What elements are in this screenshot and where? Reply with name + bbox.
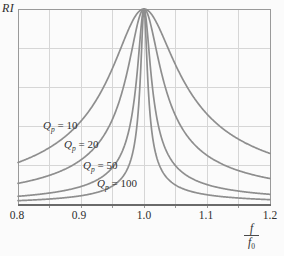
curve-label-base: Q xyxy=(43,119,51,131)
fraction-denominator-sub: 0 xyxy=(251,242,255,251)
x-tick-label-0.9: 0.9 xyxy=(72,209,86,221)
curve-label-base: Q xyxy=(64,138,72,150)
curve-label-base: Q xyxy=(97,177,105,189)
fraction-numerator: f xyxy=(244,222,259,235)
curve-label-value: = 100 xyxy=(109,177,137,189)
x-tick-label-0.8: 0.8 xyxy=(10,209,24,221)
x-axis-label-fraction: f f0 xyxy=(244,222,259,249)
curve-label-base: Q xyxy=(83,159,91,171)
x-tick-label-1.1: 1.1 xyxy=(199,209,213,221)
y-axis-label: RI xyxy=(2,1,14,16)
fraction-denominator: f0 xyxy=(244,235,259,249)
curve-label-qp50: Qp = 50 xyxy=(83,159,117,171)
curve-label-qp20: Qp = 20 xyxy=(64,138,98,150)
curve-label-value: = 20 xyxy=(76,138,99,150)
curve-label-qp10: Qp = 10 xyxy=(43,119,77,131)
x-tick-label-1.2: 1.2 xyxy=(263,209,277,221)
curve-label-value: = 10 xyxy=(55,119,78,131)
grid-layer xyxy=(18,9,270,205)
resonance-curves-figure: RI Qp = 10 Qp = 20 Qp = 50 Qp = 100 0.8 … xyxy=(0,0,284,256)
curve-label-value: = 50 xyxy=(95,159,118,171)
curve-label-qp100: Qp = 100 xyxy=(97,177,137,189)
x-tick-label-1.0: 1.0 xyxy=(137,209,151,221)
